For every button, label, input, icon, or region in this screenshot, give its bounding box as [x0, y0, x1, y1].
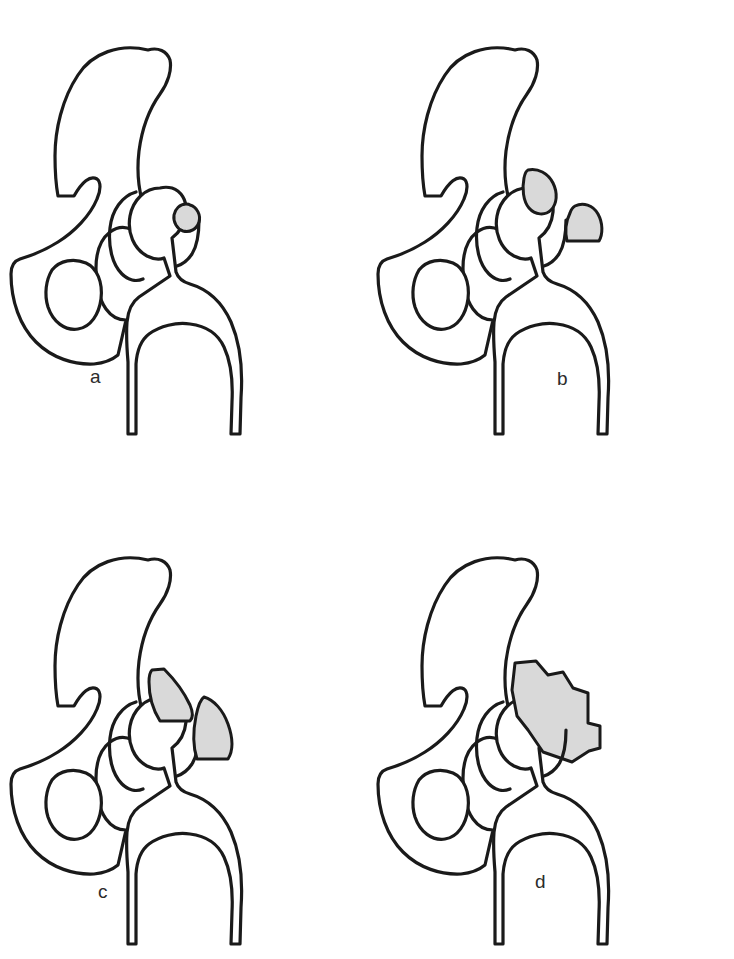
panel-b: b — [367, 20, 734, 460]
ossification-island — [174, 204, 200, 232]
panel-label-b: b — [557, 368, 568, 389]
panel-label-c: c — [98, 881, 108, 902]
panel-label-a: a — [90, 366, 101, 387]
figure-heterotopic-ossification-grades: a b c — [0, 0, 734, 959]
obturator-foramen — [413, 260, 468, 329]
panel-d: d — [367, 530, 734, 959]
obturator-foramen — [413, 770, 468, 839]
caption-strip — [0, 944, 734, 959]
ossification-spur-femoral — [194, 697, 232, 759]
ossification-spur-pelvic — [149, 669, 192, 721]
ossification-spur-pelvic — [523, 170, 556, 214]
obturator-foramen — [46, 260, 101, 329]
obturator-foramen — [46, 770, 101, 839]
panel-label-d: d — [535, 871, 546, 892]
panel-a: a — [0, 20, 367, 460]
ossification-spur-femoral — [566, 204, 602, 241]
panel-c: c — [0, 530, 367, 959]
